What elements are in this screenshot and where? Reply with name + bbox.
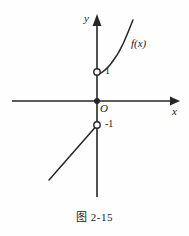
y-axis-arrowhead xyxy=(93,14,102,26)
figure-container: y x O f(x) 1 -1 图 2-15 xyxy=(0,0,189,236)
value-label-one: 1 xyxy=(105,66,110,76)
figure-caption: 图 2-15 xyxy=(0,208,189,224)
open-point-marker-upper xyxy=(94,69,100,75)
y-axis-label: y xyxy=(84,13,89,24)
upper-branch-curve xyxy=(99,20,134,74)
function-label: f(x) xyxy=(131,38,146,49)
value-label-negative-one: -1 xyxy=(105,119,113,129)
origin-label: O xyxy=(100,103,108,114)
function-graph-plot xyxy=(0,0,189,236)
x-axis-label: x xyxy=(172,106,177,117)
lower-branch-line xyxy=(49,127,96,180)
open-point-marker-lower xyxy=(94,122,100,128)
